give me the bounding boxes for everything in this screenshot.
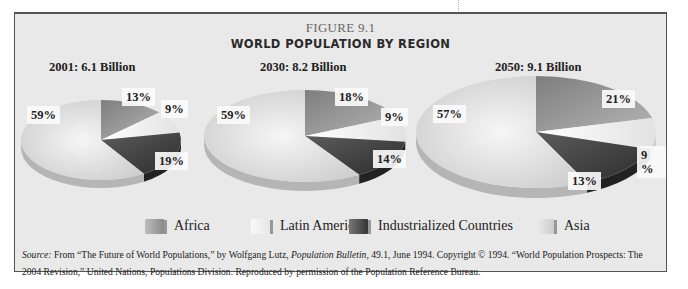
- pct-2030-africa: 18%: [335, 88, 368, 106]
- pct-2001-industrialized: 19%: [155, 152, 188, 170]
- pct-2050-asia: 57%: [433, 105, 466, 123]
- source-citation: Source: From “The Future of World Popula…: [22, 246, 656, 280]
- pct-2030-industrialized: 14%: [373, 150, 406, 168]
- legend-label-industrialized: Industrialized Countries: [378, 218, 513, 234]
- pct-2001-africa: 13%: [122, 88, 155, 106]
- swatch-asia-icon: [535, 219, 554, 234]
- source-prefix: Source:: [22, 249, 51, 260]
- pct-2001-asia: 59%: [27, 106, 60, 124]
- pct-2050-africa: 21%: [602, 90, 635, 108]
- source-publication: Population Bulletin: [291, 249, 366, 260]
- legend-label-africa: Africa: [174, 218, 210, 234]
- legend-item-asia: Asia: [535, 218, 590, 234]
- legend-item-industrialized: Industrialized Countries: [349, 218, 513, 234]
- legend: Africa Latin America Industrialized Coun…: [15, 218, 666, 240]
- figure-frame: FIGURE 9.1 WORLD POPULATION BY REGION 20…: [14, 12, 667, 272]
- legend-item-latin-america: Latin America: [251, 218, 360, 234]
- swatch-africa-icon: [145, 219, 164, 234]
- pct-2001-latin-america: 9%: [161, 100, 188, 118]
- swatch-latin-america-icon: [251, 219, 270, 234]
- source-text-1: From “The Future of World Populations,” …: [51, 249, 291, 260]
- pct-2050-latin-america: 9 %: [637, 146, 666, 178]
- legend-item-africa: Africa: [145, 218, 210, 234]
- pct-2050-industrialized: 13%: [568, 172, 601, 190]
- legend-label-asia: Asia: [564, 218, 590, 234]
- swatch-industrialized-icon: [349, 219, 368, 234]
- pct-2030-latin-america: 9%: [381, 108, 408, 126]
- pct-2030-asia: 59%: [217, 106, 250, 124]
